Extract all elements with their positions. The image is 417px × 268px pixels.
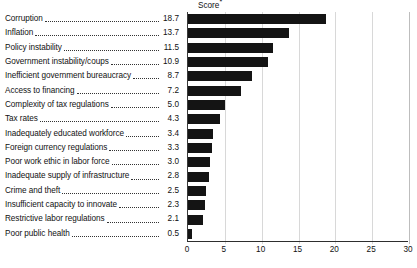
data-value-label: 3.3 [161, 144, 182, 152]
bar [188, 43, 273, 53]
category-label-row: Insufficient capacity to innovate2.3 [0, 198, 182, 212]
chart-axis-title: Score* [198, 2, 222, 10]
bar-row [188, 212, 408, 226]
x-tick-label: 0 [185, 246, 190, 254]
plot-area [187, 12, 408, 241]
x-axis-tick-labels: 051015202530 [187, 246, 408, 260]
bar [188, 100, 225, 110]
category-label-row: Poor public health0.5 [0, 227, 182, 241]
bar [188, 143, 212, 153]
category-label: Tax rates [0, 115, 38, 123]
data-value-label: 13.7 [161, 29, 182, 37]
leader-dots [77, 87, 159, 95]
category-label-row: Poor work ethic in labor force3.0 [0, 155, 182, 169]
bar [188, 71, 252, 81]
bar [188, 86, 241, 96]
bar-row [188, 227, 408, 241]
category-label: Inefficient government bureaucracy [0, 72, 131, 80]
bar-chart: Score* Corruption18.7Inflation13.7Policy… [0, 0, 417, 268]
x-tick-label: 30 [403, 246, 412, 254]
bar [188, 229, 192, 239]
category-label: Complexity of tax regulations [0, 101, 109, 109]
leader-dots [112, 158, 159, 166]
bar-row [188, 69, 408, 83]
category-label-row: Inadequate supply of infrastructure2.8 [0, 169, 182, 183]
category-label: Access to financing [0, 87, 75, 95]
bar-row [188, 112, 408, 126]
x-tick-label: 25 [367, 246, 376, 254]
data-value-label: 2.1 [161, 215, 182, 223]
category-label-row: Restrictive labor regulations2.1 [0, 212, 182, 226]
category-label-row: Complexity of tax regulations5.0 [0, 98, 182, 112]
footnote-marker: * [219, 0, 222, 5]
x-tick-label: 15 [293, 246, 302, 254]
category-label: Poor public health [0, 230, 70, 238]
category-label-row: Government instability/coups10.9 [0, 55, 182, 69]
bar [188, 14, 326, 24]
category-label-row: Inefficient government bureaucracy8.7 [0, 69, 182, 83]
bar-row [188, 169, 408, 183]
data-value-label: 3.4 [161, 130, 182, 138]
data-value-label: 18.7 [161, 15, 182, 23]
bar-row [188, 26, 408, 40]
data-value-label: 8.7 [161, 72, 182, 80]
data-value-label: 11.5 [161, 44, 182, 52]
data-value-label: 0.5 [161, 230, 182, 238]
bar-row [188, 98, 408, 112]
bar-row [188, 12, 408, 26]
bar [188, 28, 289, 38]
x-tick-label: 5 [222, 246, 227, 254]
x-tick-label: 10 [256, 246, 265, 254]
leader-dots [109, 144, 159, 152]
x-axis-line [187, 241, 408, 242]
category-label: Poor work ethic in labor force [0, 158, 110, 166]
leader-dots [107, 216, 159, 224]
leader-dots [111, 58, 159, 66]
category-label: Policy instability [0, 44, 62, 52]
bar-row [188, 84, 408, 98]
bar [188, 186, 206, 196]
category-label-row: Policy instability11.5 [0, 41, 182, 55]
category-label: Inadequately educated workforce [0, 130, 124, 138]
category-label-row: Crime and theft2.5 [0, 184, 182, 198]
bar-series [188, 12, 408, 241]
x-tick-label: 20 [330, 246, 339, 254]
bar-row [188, 55, 408, 69]
category-label-row: Access to financing7.2 [0, 84, 182, 98]
category-label: Government instability/coups [0, 58, 109, 66]
leader-dots [111, 101, 159, 109]
category-label: Corruption [0, 15, 43, 23]
data-value-label: 5.0 [161, 101, 182, 109]
data-value-label: 10.9 [161, 58, 182, 66]
leader-dots [119, 201, 159, 209]
bar-row [188, 184, 408, 198]
bar-row [188, 198, 408, 212]
bar-row [188, 155, 408, 169]
leader-dots [133, 72, 159, 80]
bar [188, 114, 220, 124]
bar [188, 157, 210, 167]
data-value-label: 7.2 [161, 87, 182, 95]
leader-dots [40, 115, 159, 123]
category-label: Insufficient capacity to innovate [0, 201, 117, 209]
data-value-label: 2.3 [161, 201, 182, 209]
bar-row [188, 141, 408, 155]
chart-axis-title-text: Score [198, 1, 219, 10]
bar [188, 215, 203, 225]
bar [188, 129, 213, 139]
leader-dots [45, 15, 159, 23]
category-label-row: Tax rates4.3 [0, 112, 182, 126]
category-label: Foreign currency regulations [0, 144, 107, 152]
data-value-label: 2.8 [161, 172, 182, 180]
leader-dots [72, 230, 159, 238]
category-label-column: Corruption18.7Inflation13.7Policy instab… [0, 12, 182, 241]
bar-row [188, 127, 408, 141]
category-label-row: Inadequately educated workforce3.4 [0, 127, 182, 141]
data-value-label: 3.0 [161, 158, 182, 166]
leader-dots [35, 29, 159, 37]
category-label: Restrictive labor regulations [0, 215, 105, 223]
data-value-label: 2.5 [161, 187, 182, 195]
bar [188, 172, 209, 182]
leader-dots [126, 130, 159, 138]
category-label: Inflation [0, 29, 33, 37]
